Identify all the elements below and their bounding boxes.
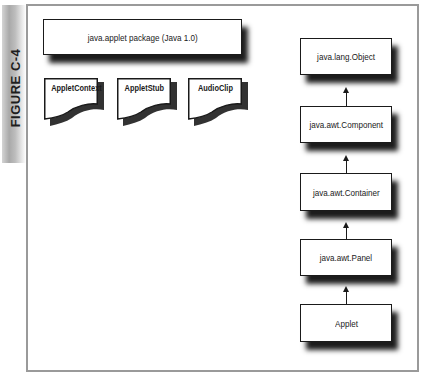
class-box-java-awt-container: java.awt.Container: [300, 173, 392, 211]
figure-label: FIGURE C-4: [8, 49, 23, 128]
interface-label: AudioClip: [197, 82, 232, 93]
class-label: java.lang.Object: [317, 51, 375, 62]
interface-label: AppletStub: [124, 82, 164, 93]
interface-audio-clip: AudioClip: [188, 78, 242, 120]
class-box-java-awt-panel: java.awt.Panel: [300, 239, 392, 276]
inheritance-arrow: [346, 291, 347, 304]
class-label: java.awt.Container: [313, 187, 380, 198]
interface-applet-context: AppletContext: [44, 78, 98, 120]
class-box-java-awt-component: java.awt.Component: [300, 106, 392, 143]
class-box-java-lang-object: java.lang.Object: [300, 38, 392, 75]
interface-applet-stub: AppletStub: [117, 78, 171, 120]
package-box: java.applet package (Java 1.0): [43, 19, 242, 55]
interface-label: AppletContext: [51, 82, 102, 93]
inheritance-arrow: [346, 160, 347, 173]
inheritance-arrow: [346, 92, 347, 106]
inheritance-arrow: [346, 227, 347, 239]
package-box-label: java.applet package (Java 1.0): [88, 32, 198, 43]
class-label: java.awt.Component: [309, 119, 383, 130]
class-label: java.awt.Panel: [320, 252, 373, 263]
class-box-applet: Applet: [300, 304, 392, 342]
figure-tab: FIGURE C-4: [2, 5, 26, 163]
class-label: Applet: [335, 318, 358, 329]
